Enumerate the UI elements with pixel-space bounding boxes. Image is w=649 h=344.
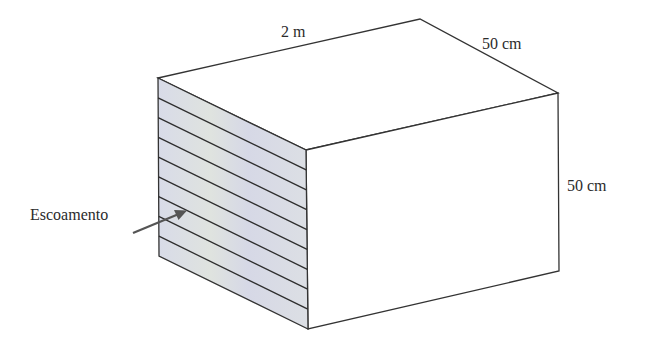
length-label: 2 m bbox=[281, 23, 306, 40]
height-label: 50 cm bbox=[567, 177, 607, 194]
flow-label: Escoamento bbox=[30, 206, 108, 223]
depth-label: 50 cm bbox=[482, 35, 522, 52]
diagram-canvas: 2 m 50 cm 50 cm Escoamento bbox=[0, 0, 649, 344]
